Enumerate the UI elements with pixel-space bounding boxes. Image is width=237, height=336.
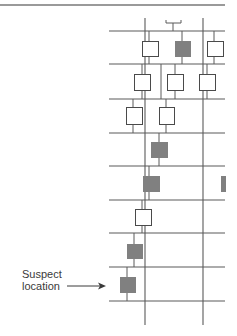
component-box <box>143 42 159 57</box>
component-box <box>208 42 224 57</box>
horizontal-rails <box>109 31 225 301</box>
component-box <box>200 75 216 91</box>
highlighted-component-box <box>222 177 226 192</box>
highlighted-component-box <box>176 42 191 57</box>
suspect-label-line2: location <box>22 280 62 292</box>
component-box <box>135 75 151 91</box>
highlighted-component-box <box>121 278 136 293</box>
suspect-label-line1: Suspect <box>22 268 62 280</box>
suspect-arrow-icon <box>67 283 106 290</box>
highlighted-component-box <box>144 177 160 192</box>
component-box <box>136 210 152 226</box>
top-bracket <box>166 20 181 31</box>
suspect-location-label: Suspect location <box>22 268 62 292</box>
component-box <box>160 108 175 125</box>
component-box <box>127 108 143 125</box>
component-boxes <box>121 42 226 293</box>
highlighted-component-box <box>152 143 168 158</box>
component-box <box>168 75 184 91</box>
highlighted-component-box <box>128 245 143 259</box>
bracket-shape <box>166 20 181 23</box>
